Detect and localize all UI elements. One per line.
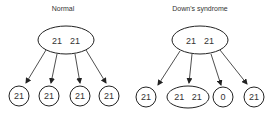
daughter-cell: 21	[39, 86, 59, 106]
parent-cell: 21 21	[38, 26, 94, 54]
panel-downs-syndrome: Down's syndrome 21 21 21 21 21 0 21	[136, 5, 264, 108]
daughter-cell: 21	[9, 86, 29, 106]
chromosome-label: 21	[14, 91, 24, 101]
arrow	[75, 54, 80, 83]
panel-title: Down's syndrome	[172, 5, 228, 13]
chromosome-label: 21	[44, 91, 54, 101]
arrow	[220, 50, 247, 84]
diagram: Normal 21 21 21 21 21 21 Down's syndrome	[0, 0, 274, 117]
panel-title: Normal	[52, 5, 75, 12]
arrow	[211, 54, 221, 85]
arrow	[86, 50, 106, 83]
panel-normal: Normal 21 21 21 21 21 21	[9, 5, 119, 106]
daughter-cell: 21	[244, 87, 264, 107]
daughter-cell: 21	[136, 87, 156, 107]
chromosome-label: 21	[70, 36, 80, 46]
chromosome-label: 21	[52, 36, 62, 46]
arrow	[158, 51, 180, 85]
chromosome-label: 21	[186, 36, 196, 46]
chromosome-label: 21 21	[174, 92, 202, 102]
daughter-cell: 21	[70, 86, 90, 106]
arrow	[51, 54, 57, 83]
arrow	[26, 50, 46, 83]
daughter-cell: 21	[99, 86, 119, 106]
chromosome-label: 21	[249, 92, 259, 102]
chromosome-label: 21	[204, 36, 214, 46]
chromosome-label: 21	[141, 92, 151, 102]
chromosome-label: 21	[104, 91, 114, 101]
arrow	[189, 54, 192, 83]
daughter-cell-trisomy: 21 21	[167, 86, 209, 108]
daughter-cell-nullisomy: 0	[213, 87, 233, 107]
chromosome-label: 0	[220, 92, 225, 102]
chromosome-label: 21	[75, 91, 85, 101]
parent-cell: 21 21	[172, 26, 228, 54]
